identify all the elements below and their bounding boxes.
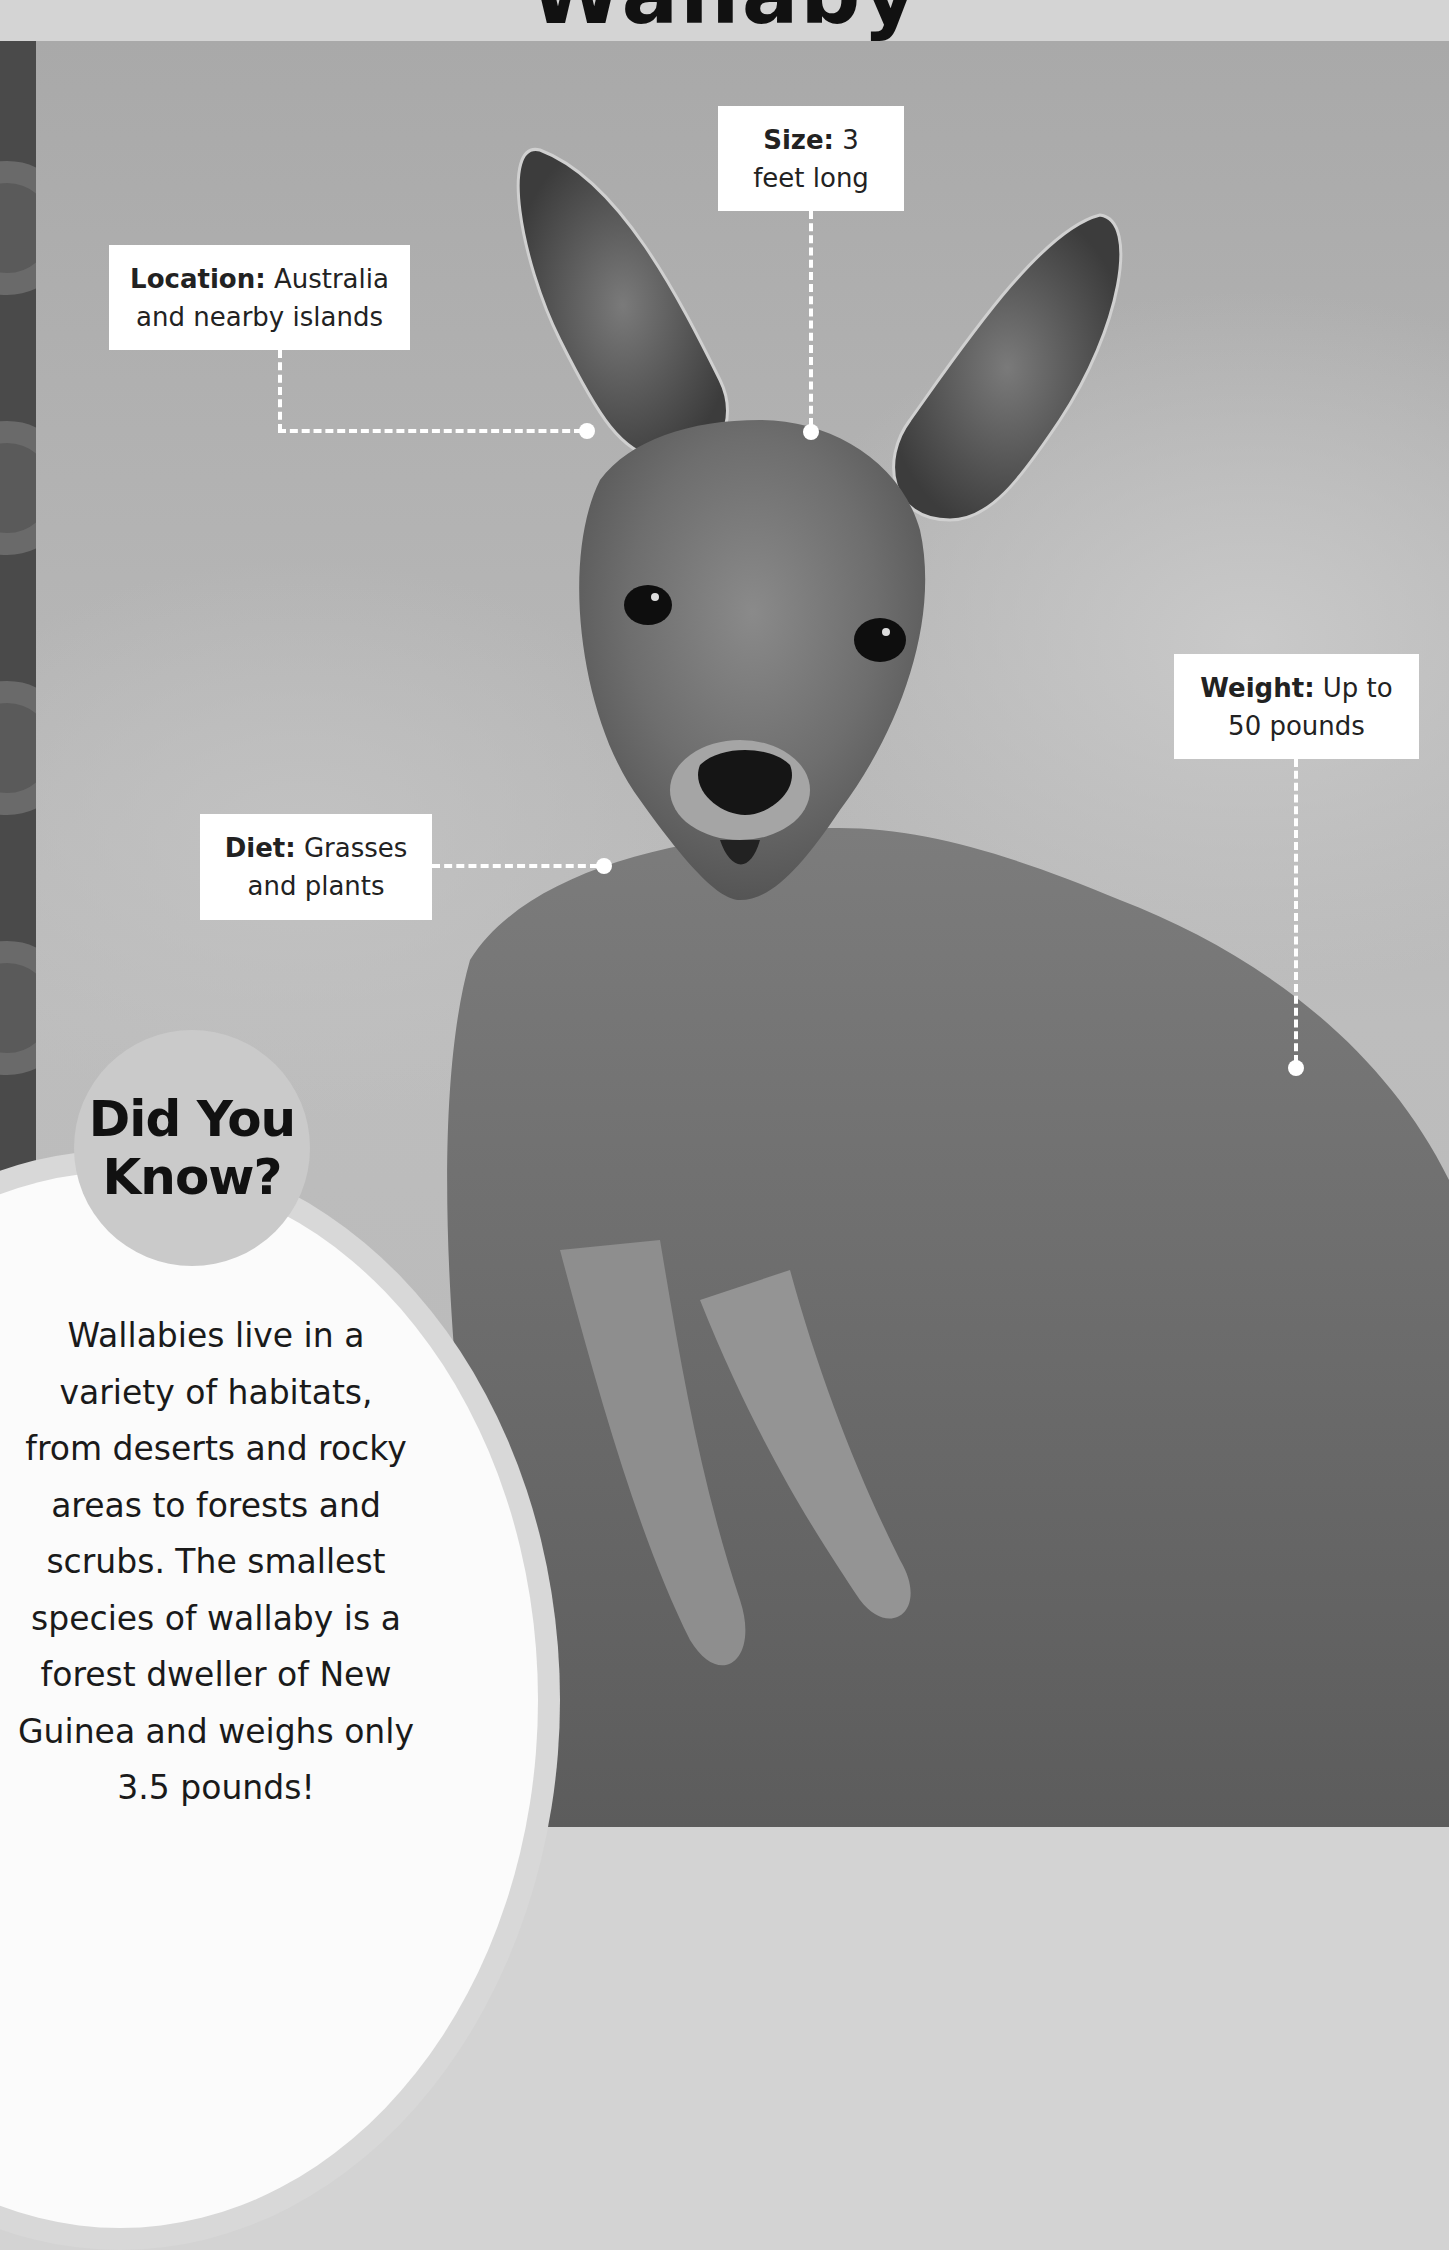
fact-line: Guinea and weighs only — [10, 1704, 422, 1761]
location-callout: Location: Australia and nearby islands — [109, 245, 410, 350]
decorative-strip — [0, 41, 36, 1191]
ring-decoration — [0, 941, 36, 1075]
did-you-know-title-line2: Know? — [103, 1148, 282, 1206]
location-marker-dot — [579, 423, 595, 439]
fact-line: forest dweller of New — [10, 1647, 422, 1704]
ring-decoration — [0, 681, 36, 815]
fact-line: areas to forests and — [10, 1478, 422, 1535]
size-value-line1: 3 — [842, 125, 859, 155]
diet-marker-dot — [596, 858, 612, 874]
diet-value-line1: Grasses — [304, 833, 407, 863]
size-marker-dot — [803, 424, 819, 440]
fact-line: Wallabies live in a — [10, 1308, 422, 1365]
size-value-line2: feet long — [753, 159, 869, 197]
size-leader-line — [809, 211, 813, 426]
location-label: Location: — [130, 264, 266, 294]
diet-callout: Diet: Grasses and plants — [200, 814, 432, 920]
diet-leader-line — [432, 864, 598, 868]
ring-decoration — [0, 421, 36, 555]
size-callout: Size: 3 feet long — [718, 106, 904, 211]
fact-line: 3.5 pounds! — [10, 1760, 422, 1817]
weight-callout: Weight: Up to 50 pounds — [1174, 654, 1419, 759]
weight-marker-dot — [1288, 1060, 1304, 1076]
fact-line: variety of habitats, — [10, 1365, 422, 1422]
diet-label: Diet: — [225, 833, 296, 863]
weight-label: Weight: — [1200, 673, 1314, 703]
fact-line: species of wallaby is a — [10, 1591, 422, 1648]
location-leader-horizontal — [278, 429, 582, 433]
location-leader-vertical — [278, 350, 282, 432]
did-you-know-text: Wallabies live in a variety of habitats,… — [10, 1308, 422, 1817]
fact-line: from deserts and rocky — [10, 1421, 422, 1478]
location-value-line1: Australia — [274, 264, 389, 294]
ring-decoration — [0, 161, 36, 295]
location-value-line2: and nearby islands — [136, 298, 383, 336]
diet-value-line2: and plants — [247, 867, 384, 905]
weight-leader-line — [1294, 759, 1298, 1063]
fact-line: scrubs. The smallest — [10, 1534, 422, 1591]
weight-value-line1: Up to — [1323, 673, 1393, 703]
weight-value-line2: 50 pounds — [1228, 707, 1365, 745]
did-you-know-badge: Did You Know? — [74, 1030, 310, 1266]
size-label: Size: — [763, 125, 834, 155]
did-you-know-title-line1: Did You — [89, 1090, 295, 1148]
